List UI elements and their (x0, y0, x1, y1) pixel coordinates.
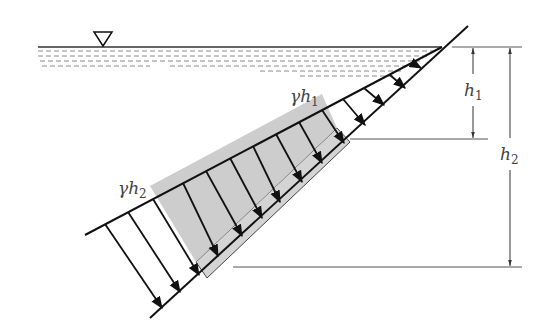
water-body (38, 51, 436, 76)
label-gamma-h1: γh1 (290, 86, 319, 109)
label-gamma-h2: γh2 (118, 178, 147, 201)
label-h1: h1 (464, 80, 483, 103)
water-level-triangle-icon (94, 32, 112, 46)
label-h2: h2 (500, 144, 519, 167)
pressure-diagram: γh1 γh2 h1 h2 (0, 0, 545, 328)
